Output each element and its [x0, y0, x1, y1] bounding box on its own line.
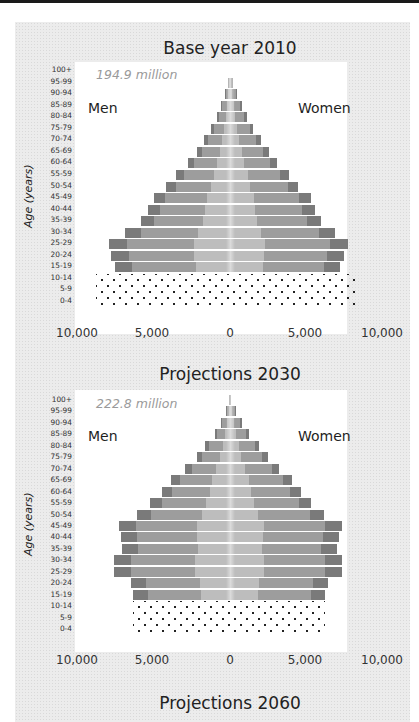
age-label: 30-34 — [51, 226, 72, 237]
age-label: 65-69 — [51, 474, 72, 485]
age-label: 70-74 — [51, 463, 72, 474]
bar-men — [176, 170, 230, 180]
bar-men — [114, 567, 230, 577]
bar-women — [230, 590, 325, 600]
bar-men — [131, 578, 230, 588]
chart-title-2060: Projections 2060 — [0, 693, 419, 713]
total-population: 222.8 million — [96, 396, 177, 411]
bar-women — [230, 475, 292, 485]
bar-men — [141, 216, 230, 226]
total-population: 194.9 million — [96, 67, 177, 82]
age-label: 0-4 — [60, 623, 72, 634]
age-label: 20-24 — [51, 249, 72, 260]
bar-women — [230, 158, 277, 168]
bar-women — [230, 544, 337, 554]
bar-women — [230, 464, 279, 474]
x-tick-label: 5,000 — [288, 326, 322, 340]
age-label: 50-54 — [51, 180, 72, 191]
age-label: 15-19 — [51, 260, 72, 271]
bar-women — [230, 170, 289, 180]
age-label: 35-39 — [51, 543, 72, 554]
age-label: 5-9 — [60, 612, 72, 623]
dotted-young-ages — [133, 601, 325, 635]
age-label: 50-54 — [51, 509, 72, 520]
age-label: 60-64 — [51, 486, 72, 497]
chart-title: Base year 2010 — [0, 38, 419, 58]
x-tick-label: 0 — [226, 653, 234, 667]
age-label: 15-19 — [51, 589, 72, 600]
age-label: 95-99 — [51, 405, 72, 416]
age-label: 25-29 — [51, 237, 72, 248]
bar-men — [166, 182, 230, 192]
bar-men — [137, 510, 230, 520]
bar-men — [111, 251, 230, 261]
bar-men — [114, 555, 230, 565]
x-tick-label: 10,000 — [361, 326, 403, 340]
bar-men — [109, 239, 230, 249]
age-label: 20-24 — [51, 577, 72, 588]
age-label: 85-89 — [51, 428, 72, 439]
age-label: 95-99 — [51, 76, 72, 87]
age-label: 10-14 — [51, 272, 72, 283]
age-label: 70-74 — [51, 133, 72, 144]
age-label: 80-84 — [51, 110, 72, 121]
women-label: Women — [298, 428, 351, 444]
age-label: 30-34 — [51, 554, 72, 565]
age-label: 5-9 — [60, 283, 72, 294]
bar-men — [171, 475, 230, 485]
age-label: 40-44 — [51, 203, 72, 214]
top-rule — [0, 0, 419, 3]
bar-men — [154, 193, 230, 203]
bar-men — [150, 498, 230, 508]
bar-women — [230, 216, 321, 226]
bar-men — [148, 205, 230, 215]
bar-men — [115, 262, 230, 272]
age-label: 25-29 — [51, 566, 72, 577]
x-tick-label: 5,000 — [135, 653, 169, 667]
bar-women — [230, 193, 311, 203]
age-label: 0-4 — [60, 295, 72, 306]
bar-men — [188, 158, 230, 168]
age-label: 75-79 — [51, 451, 72, 462]
center-axis — [226, 62, 235, 274]
age-label: 55-59 — [51, 168, 72, 179]
age-label: 90-94 — [51, 87, 72, 98]
bar-women — [230, 147, 269, 157]
age-label: 100+ — [52, 64, 72, 75]
women-label: Women — [298, 100, 351, 116]
bar-women — [230, 182, 298, 192]
x-tick-label: 10,000 — [56, 653, 98, 667]
age-label: 45-49 — [51, 191, 72, 202]
bar-men — [133, 590, 230, 600]
men-label: Men — [88, 100, 118, 116]
age-label: 65-69 — [51, 145, 72, 156]
men-label: Men — [88, 428, 118, 444]
bar-men — [121, 532, 230, 542]
dotted-young-ages — [96, 274, 359, 309]
bar-women — [230, 228, 335, 238]
y-axis-title: Age (years) — [22, 492, 35, 556]
age-label: 45-49 — [51, 520, 72, 531]
age-label: 100+ — [52, 394, 72, 405]
bar-men — [125, 228, 230, 238]
age-label: 10-14 — [51, 600, 72, 611]
age-label: 75-79 — [51, 122, 72, 133]
center-axis — [226, 391, 235, 601]
bar-women — [230, 262, 340, 272]
bar-women — [230, 578, 328, 588]
bar-women — [230, 251, 344, 261]
age-label: 80-84 — [51, 440, 72, 451]
y-axis-title: Age (years) — [22, 164, 35, 228]
bar-women — [230, 567, 342, 577]
bar-women — [230, 510, 324, 520]
age-label: 55-59 — [51, 497, 72, 508]
x-tick-label: 0 — [226, 326, 234, 340]
bar-men — [185, 464, 230, 474]
bar-women — [230, 498, 311, 508]
chart-title: Projections 2030 — [0, 364, 419, 384]
x-tick-label: 10,000 — [56, 326, 98, 340]
bar-men — [119, 521, 230, 531]
bar-women — [230, 555, 342, 565]
age-label: 35-39 — [51, 214, 72, 225]
bar-women — [230, 532, 339, 542]
